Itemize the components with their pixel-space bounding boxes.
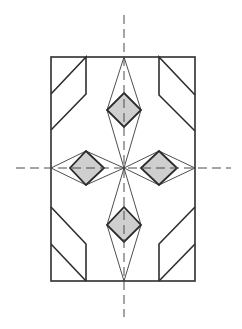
symmetry-diagram xyxy=(0,0,242,329)
background xyxy=(0,0,242,329)
